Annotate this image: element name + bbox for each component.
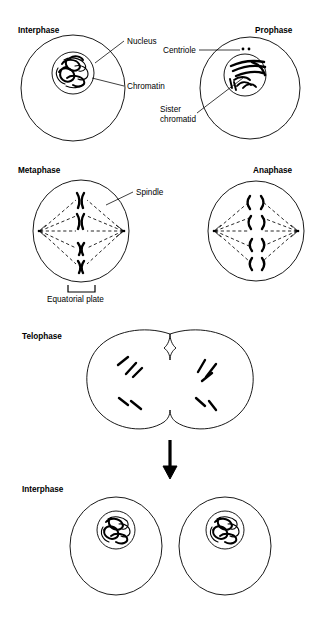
panel-prophase: Prophase (200, 26, 300, 139)
heading-telophase: Telophase (22, 332, 62, 341)
daughter-cell-left (70, 497, 162, 595)
label-spindle: Spindle (136, 188, 164, 197)
label-equatorial-plate: Equatorial plate (47, 295, 104, 304)
heading-interphase-bottom: Interphase (22, 485, 64, 494)
panel-telophase: Telophase (22, 330, 253, 429)
heading-anaphase: Anaphase (253, 166, 293, 175)
heading-metaphase: Metaphase (18, 166, 61, 175)
cell-membrane-telophase (87, 330, 253, 429)
panel-interphase-bottom: Interphase (22, 485, 271, 595)
mitosis-diagram: Interphase Prophase (0, 0, 323, 619)
label-sister-chromatid-line2: chromatid (160, 115, 196, 124)
heading-prophase: Prophase (255, 26, 293, 35)
daughter-cell-right (179, 497, 271, 595)
flow-arrow-downward (163, 440, 177, 479)
label-sister-chromatid-line1: Sister (160, 105, 181, 114)
panel-anaphase: Anaphase (208, 166, 304, 281)
label-centriole: Centriole (163, 46, 196, 55)
label-nucleus: Nucleus (127, 37, 157, 46)
label-chromatin: Chromatin (127, 82, 165, 91)
centriole-dot-right (248, 48, 251, 51)
equatorial-plate-bracket (68, 285, 95, 292)
panel-interphase-top: Interphase (18, 26, 125, 141)
centriole-dot-left (242, 48, 245, 51)
mitosis-diagram-canvas: Interphase Prophase (0, 0, 323, 619)
panel-metaphase: Metaphase (18, 166, 164, 304)
heading-interphase-top: Interphase (18, 26, 60, 35)
